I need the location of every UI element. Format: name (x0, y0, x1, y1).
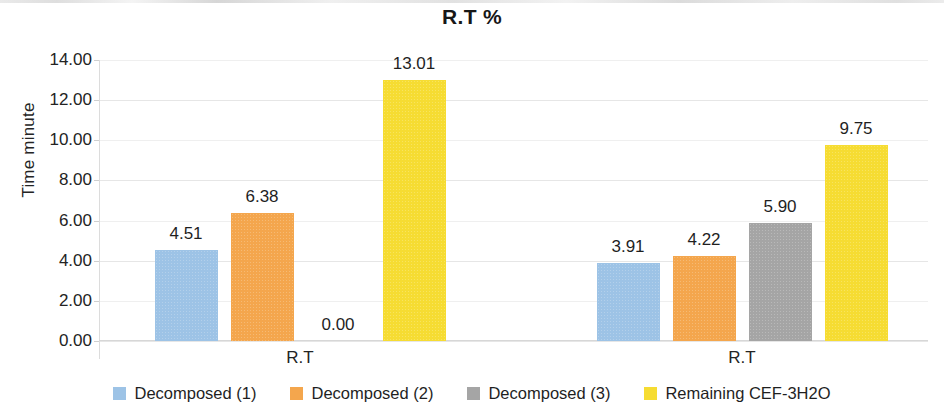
y-axis-tick-label: 4.00 (14, 251, 92, 271)
y-axis-tick-mark (94, 180, 99, 181)
legend-swatch-icon (467, 387, 480, 400)
legend-item[interactable]: Decomposed (1) (113, 385, 256, 402)
x-axis-category-label: R.T (286, 348, 313, 368)
y-axis-tick-label: 8.00 (14, 170, 92, 190)
x-axis-category-label: R.T (728, 348, 755, 368)
legend-item[interactable]: Remaining CEF-3H2O (644, 385, 830, 402)
y-axis-tick-label: 2.00 (14, 291, 92, 311)
gridline (100, 341, 928, 342)
y-axis-tick-mark (94, 60, 99, 61)
y-axis-tick-label: 6.00 (14, 211, 92, 231)
y-axis-tick-mark (94, 261, 99, 262)
y-axis-tick-label: 14.00 (14, 50, 92, 70)
plot-area: 4.516.380.0013.013.914.225.909.75 (100, 60, 928, 341)
bar-value-label: 6.38 (245, 187, 278, 207)
y-axis-tick-mark (94, 221, 99, 222)
legend-label: Decomposed (2) (311, 385, 433, 402)
gridline (100, 180, 928, 181)
chart-legend: Decomposed (1)Decomposed (2)Decomposed (… (0, 385, 944, 402)
y-axis-tick-mark (94, 140, 99, 141)
bar[interactable] (825, 145, 888, 341)
chart-title: R.T % (0, 5, 944, 29)
legend-label: Decomposed (3) (488, 385, 610, 402)
y-axis-tick-labels: 0.002.004.006.008.0010.0012.0014.00 (8, 0, 92, 414)
bar-value-label: 9.75 (839, 119, 872, 139)
bar-value-label: 4.51 (169, 224, 202, 244)
legend-swatch-icon (290, 387, 303, 400)
bar-value-label: 4.22 (687, 230, 720, 250)
bar-value-label: 13.01 (393, 54, 436, 74)
bar-chart: R.T % Time minute 0.002.004.006.008.0010… (0, 0, 944, 414)
gridline (100, 100, 928, 101)
legend-item[interactable]: Decomposed (2) (290, 385, 433, 402)
bar[interactable] (597, 263, 660, 341)
y-axis-tick-mark (94, 301, 99, 302)
gridline (100, 140, 928, 141)
bar-value-label: 5.90 (763, 197, 796, 217)
bar[interactable] (231, 213, 294, 341)
legend-item[interactable]: Decomposed (3) (467, 385, 610, 402)
gridline (100, 221, 928, 222)
y-axis-tick-label: 10.00 (14, 130, 92, 150)
legend-label: Remaining CEF-3H2O (665, 385, 830, 402)
gridline (100, 60, 928, 61)
bar[interactable] (155, 250, 218, 341)
bar-value-label: 0.00 (321, 315, 354, 335)
y-axis-tick-mark (94, 341, 99, 342)
y-axis-tick-label: 12.00 (14, 90, 92, 110)
legend-label: Decomposed (1) (134, 385, 256, 402)
y-axis-tick-label: 0.00 (14, 331, 92, 351)
y-axis-tick-mark (94, 100, 99, 101)
bar-value-label: 3.91 (611, 237, 644, 257)
bar[interactable] (673, 256, 736, 341)
bar[interactable] (383, 80, 446, 341)
legend-swatch-icon (644, 387, 657, 400)
legend-swatch-icon (113, 387, 126, 400)
bar[interactable] (749, 223, 812, 341)
